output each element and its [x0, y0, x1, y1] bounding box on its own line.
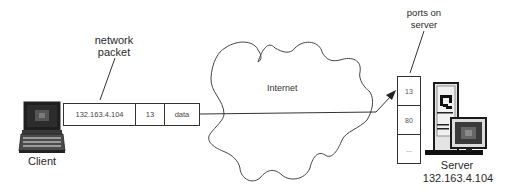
server-port-80: 80: [398, 106, 420, 135]
ports-caption: ports on server: [402, 7, 446, 31]
internet-cloud-icon: [209, 42, 373, 181]
packet-field-destination-port: 13: [136, 104, 165, 125]
arrowhead-icon: [386, 90, 396, 100]
connection-line: [200, 95, 392, 114]
packet-caption-line1: network: [94, 34, 134, 46]
server-ip-label: 132.163.4.104: [420, 172, 496, 184]
network-packet: 132.163.4.104 13 data: [63, 103, 200, 126]
packet-caption: network packet: [94, 34, 134, 58]
server-ports: 13 80 ...: [397, 76, 421, 164]
server-port-13: 13: [398, 77, 420, 106]
ports-caption-line1: ports on: [402, 7, 446, 19]
packet-caption-line2: packet: [94, 46, 134, 58]
server-label: Server: [432, 159, 482, 171]
server-computer-icon: [425, 83, 486, 155]
client-laptop-icon: [19, 102, 65, 153]
client-label: Client: [22, 155, 62, 167]
packet-field-destination-ip: 132.163.4.104: [64, 104, 136, 125]
ports-caption-line2: server: [402, 19, 446, 31]
server-port-more: ...: [398, 135, 420, 163]
internet-label: Internet: [267, 83, 298, 93]
packet-caption-leader-line: [100, 58, 115, 100]
packet-field-payload: data: [165, 104, 199, 125]
ports-caption-leader-line: [410, 31, 424, 73]
